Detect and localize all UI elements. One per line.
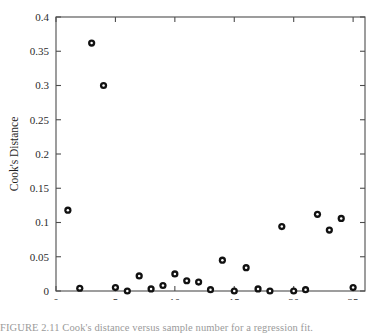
- marker-center: [316, 213, 319, 216]
- data-point: [76, 285, 83, 292]
- data-point: [314, 211, 321, 218]
- y-axis-ticks: 00.050.10.150.20.250.30.350.4: [30, 11, 365, 297]
- marker-center: [67, 209, 70, 212]
- data-point: [338, 215, 345, 222]
- data-point: [266, 287, 273, 294]
- data-point: [254, 285, 261, 292]
- x-axis-ticks: 0510152025: [53, 17, 359, 300]
- marker-center: [197, 281, 200, 284]
- data-point: [207, 286, 214, 293]
- data-point: [290, 287, 297, 294]
- y-tick-label: 0.35: [30, 45, 50, 57]
- marker-center: [185, 279, 188, 282]
- x-tick-label: 10: [169, 296, 181, 300]
- data-point: [219, 257, 226, 264]
- data-point: [64, 207, 71, 214]
- marker-center: [292, 290, 295, 293]
- figure-container: 00.050.10.150.20.250.30.350.4 0510152025…: [0, 0, 380, 334]
- y-tick-label: 0.05: [30, 251, 50, 263]
- marker-center: [352, 286, 355, 289]
- data-point: [136, 272, 143, 279]
- marker-center: [221, 259, 224, 262]
- y-tick-label: 0.2: [35, 148, 49, 160]
- marker-center: [257, 288, 260, 291]
- marker-center: [102, 84, 105, 87]
- marker-center: [126, 290, 129, 293]
- marker-center: [114, 286, 117, 289]
- data-point: [100, 82, 107, 89]
- marker-center: [328, 229, 331, 232]
- marker-center: [162, 284, 165, 287]
- data-point: [88, 39, 95, 46]
- data-point: [278, 223, 285, 230]
- marker-center: [150, 288, 153, 291]
- chart-canvas: 00.050.10.150.20.250.30.350.4 0510152025…: [0, 0, 380, 300]
- x-tick-label: 20: [288, 296, 300, 300]
- data-point: [171, 270, 178, 277]
- cooks-distance-scatter-plot: 00.050.10.150.20.250.30.350.4 0510152025…: [0, 0, 380, 300]
- marker-center: [269, 290, 272, 293]
- marker-center: [90, 42, 93, 45]
- data-point: [183, 277, 190, 284]
- data-points: [64, 39, 356, 294]
- data-point: [147, 285, 154, 292]
- y-tick-label: 0.4: [35, 11, 49, 23]
- marker-center: [138, 275, 141, 278]
- data-point: [243, 264, 250, 271]
- data-point: [350, 284, 357, 291]
- data-point: [326, 226, 333, 233]
- data-point: [195, 278, 202, 285]
- y-tick-label: 0.1: [35, 216, 49, 228]
- y-axis-title: Cook's Distance: [8, 117, 20, 192]
- marker-center: [174, 273, 177, 276]
- marker-center: [304, 288, 307, 291]
- x-tick-label: 5: [113, 296, 119, 300]
- marker-center: [209, 288, 212, 291]
- marker-center: [233, 290, 236, 293]
- marker-center: [340, 217, 343, 220]
- y-tick-label: 0.25: [30, 114, 50, 126]
- y-tick-label: 0.3: [35, 79, 49, 91]
- marker-center: [245, 266, 248, 269]
- y-tick-label: 0: [44, 285, 50, 297]
- data-point: [112, 284, 119, 291]
- x-tick-label: 15: [229, 296, 241, 300]
- marker-center: [281, 225, 284, 228]
- data-point: [124, 287, 131, 294]
- plot-frame: [56, 17, 365, 291]
- x-tick-label: 25: [348, 296, 360, 300]
- y-tick-label: 0.15: [30, 182, 50, 194]
- data-point: [159, 282, 166, 289]
- data-point: [302, 286, 309, 293]
- x-tick-label: 0: [53, 296, 59, 300]
- data-point: [231, 287, 238, 294]
- marker-center: [79, 287, 82, 290]
- figure-caption: FIGURE 2.11 Cook's distance versus sampl…: [0, 322, 380, 333]
